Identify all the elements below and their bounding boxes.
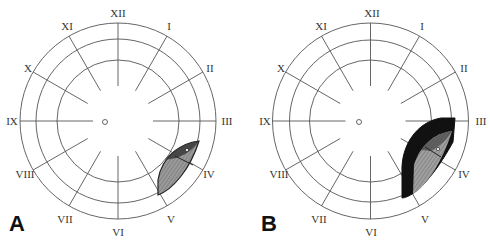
- label-v: V: [167, 213, 175, 225]
- label-iv: IV: [458, 168, 470, 180]
- label-viii: VIII: [270, 168, 289, 180]
- label-ii: II: [460, 62, 468, 74]
- fundus-chart-a: XII I II III IV V VI VII VIII IX X XI: [0, 0, 245, 246]
- label-i: I: [167, 20, 171, 32]
- panel-letter-a: A: [9, 211, 25, 237]
- fundus-chart-b: XII I II III IV V VI VII VIII IX X XI: [245, 0, 490, 246]
- panel-b: XII I II III IV V VI VII VIII IX X XI B: [245, 0, 490, 246]
- spokes: [20, 23, 216, 219]
- label-iii: III: [222, 115, 233, 127]
- label-xi: XI: [61, 20, 73, 32]
- fixation-point: [357, 120, 362, 125]
- label-vi: VI: [112, 226, 124, 238]
- label-ix: IX: [6, 115, 18, 127]
- panel-a: XII I II III IV V VI VII VIII IX X XI A: [0, 0, 245, 246]
- label-vii: VII: [57, 213, 73, 225]
- label-iv: IV: [203, 168, 215, 180]
- lesion-dot: [185, 148, 188, 151]
- label-x: X: [277, 62, 285, 74]
- label-xi: XI: [315, 20, 327, 32]
- lesion-dot: [436, 147, 439, 150]
- lesion-b: [402, 118, 455, 198]
- label-ix: IX: [259, 115, 271, 127]
- label-vi: VI: [365, 226, 377, 238]
- lesion-a: [158, 141, 199, 195]
- label-xii: XII: [364, 7, 380, 19]
- panel-letter-b: B: [261, 211, 277, 237]
- label-i: I: [420, 20, 424, 32]
- label-ii: II: [206, 62, 214, 74]
- label-viii: VIII: [16, 168, 35, 180]
- label-x: X: [24, 62, 32, 74]
- label-v: V: [421, 213, 429, 225]
- fixation-point: [103, 120, 108, 125]
- label-vii: VII: [311, 213, 327, 225]
- label-iii: III: [476, 115, 487, 127]
- label-xii: XII: [110, 7, 126, 19]
